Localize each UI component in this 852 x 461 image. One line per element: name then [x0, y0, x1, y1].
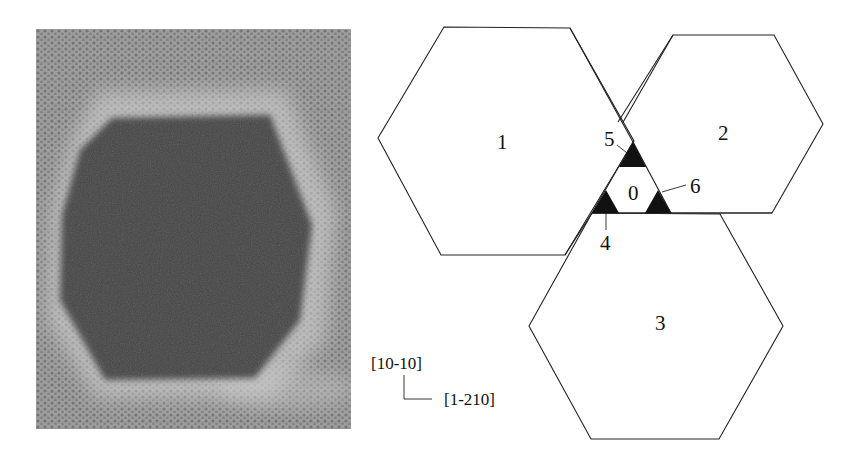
label-corner-4: 4	[600, 231, 611, 255]
label-center-0: 0	[628, 181, 639, 205]
label-corner-6: 6	[690, 174, 701, 198]
hexagon-schematic: 1 2 3 0 4 5 6 [10-10] [1-210]	[0, 0, 852, 461]
label-hexagon-1: 1	[497, 130, 508, 154]
label-corner-5: 5	[604, 127, 615, 151]
figure: 1 2 3 0 4 5 6 [10-10] [1-210]	[0, 0, 852, 461]
direction-label-vertical: [10-10]	[371, 354, 422, 373]
label-hexagon-3: 3	[655, 311, 666, 335]
direction-axes-indicator	[404, 375, 432, 399]
direction-label-horizontal: [1-210]	[444, 390, 495, 409]
label-hexagon-2: 2	[718, 121, 729, 145]
